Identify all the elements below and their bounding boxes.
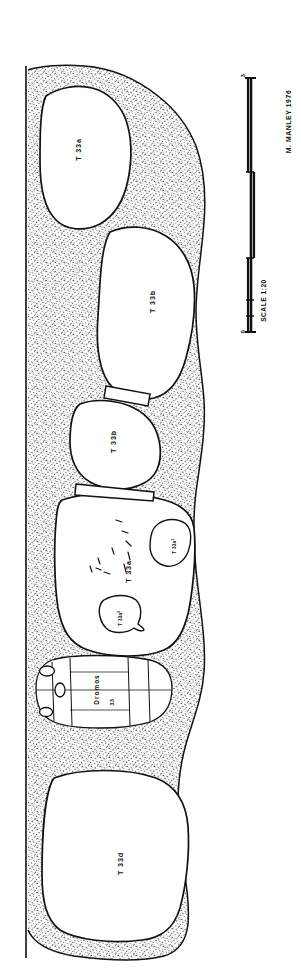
chamber-t33a-north bbox=[40, 86, 131, 229]
site-plan-svg bbox=[0, 0, 301, 972]
dromos-block-c bbox=[55, 683, 65, 697]
chamber-t33d-south bbox=[42, 771, 189, 942]
dromos-block-b bbox=[40, 708, 53, 717]
drawing-plate: T 33a T 33b T 33b T 33a T 33d T 33a1 T 3… bbox=[0, 0, 301, 972]
dromos-block-a bbox=[40, 666, 55, 676]
pit-t33a-2 bbox=[99, 596, 144, 633]
chamber-t33b-large bbox=[97, 227, 194, 399]
dromos-structure bbox=[36, 656, 172, 729]
